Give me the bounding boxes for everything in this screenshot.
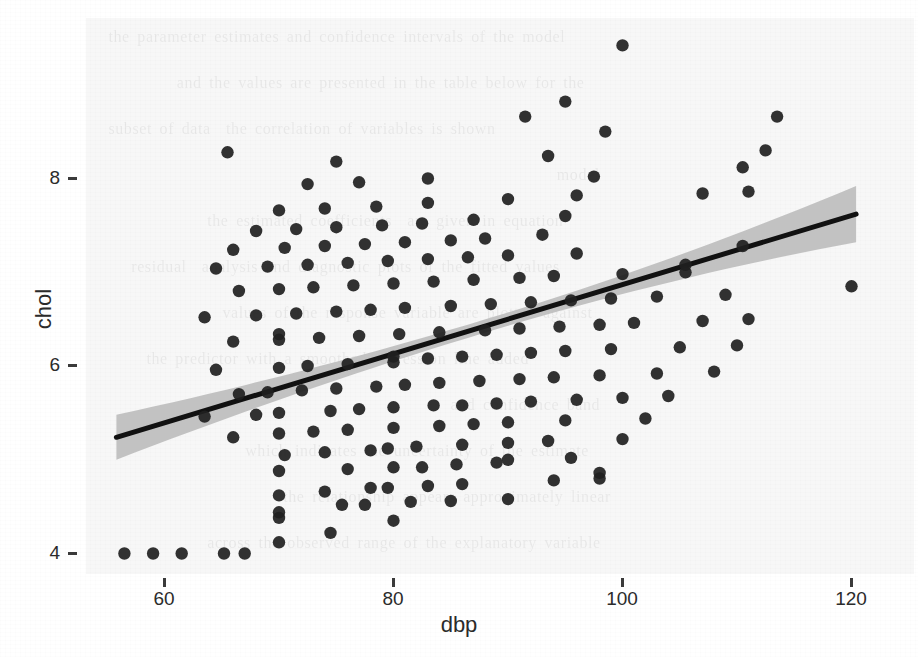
data-point: [616, 39, 628, 51]
data-point: [473, 375, 485, 387]
data-point: [845, 280, 857, 292]
data-point: [651, 290, 663, 302]
data-point: [605, 292, 617, 304]
data-point: [605, 343, 617, 355]
data-point: [353, 403, 365, 415]
data-point: [387, 401, 399, 413]
data-point: [422, 253, 434, 265]
data-point: [502, 437, 514, 449]
data-point: [301, 178, 313, 190]
data-point: [221, 146, 233, 158]
data-point: [118, 547, 130, 559]
data-point: [422, 172, 434, 184]
data-point: [467, 274, 479, 286]
data-point: [273, 465, 285, 477]
data-point: [364, 482, 376, 494]
data-point: [502, 416, 514, 428]
data-point: [433, 326, 445, 338]
data-point: [759, 144, 771, 156]
data-point: [502, 454, 514, 466]
data-point: [427, 399, 439, 411]
data-point: [330, 221, 342, 233]
data-point: [324, 405, 336, 417]
data-point: [571, 247, 583, 259]
data-point: [399, 379, 411, 391]
data-point: [347, 279, 359, 291]
data-point: [696, 187, 708, 199]
data-point: [387, 515, 399, 527]
data-point: [525, 347, 537, 359]
data-point: [490, 397, 502, 409]
data-point: [273, 328, 285, 340]
data-point: [261, 386, 273, 398]
data-point: [696, 315, 708, 327]
data-point: [324, 527, 336, 539]
data-point: [273, 536, 285, 548]
data-point: [382, 482, 394, 494]
data-point: [342, 358, 354, 370]
data-point: [319, 202, 331, 214]
data-point: [210, 262, 222, 274]
data-point: [336, 499, 348, 511]
data-point: [737, 161, 749, 173]
data-point: [342, 424, 354, 436]
data-point: [571, 394, 583, 406]
data-point: [422, 480, 434, 492]
data-point: [771, 110, 783, 122]
x-tick-mark-100: [621, 578, 624, 587]
data-point: [239, 547, 251, 559]
data-point: [565, 452, 577, 464]
data-point: [273, 362, 285, 374]
data-point: [593, 467, 605, 479]
data-point: [456, 439, 468, 451]
data-point: [382, 255, 394, 267]
data-point: [445, 234, 457, 246]
data-point: [593, 369, 605, 381]
figure-root: the parameter estimates and confidence i…: [0, 0, 918, 657]
data-point: [330, 382, 342, 394]
data-point: [445, 495, 457, 507]
data-point: [708, 365, 720, 377]
x-tick-mark-80: [392, 578, 395, 587]
data-point: [467, 418, 479, 430]
data-point: [462, 251, 474, 263]
data-point: [674, 341, 686, 353]
data-point: [536, 229, 548, 241]
data-point: [485, 298, 497, 310]
data-point: [427, 275, 439, 287]
data-point: [467, 214, 479, 226]
data-point: [616, 433, 628, 445]
data-point: [353, 330, 365, 342]
data-point: [370, 380, 382, 392]
data-point: [387, 422, 399, 434]
data-point: [364, 444, 376, 456]
y-tick-mark-4: [68, 552, 77, 555]
y-tick-label-4: 4: [20, 542, 60, 564]
x-tick-label-100: 100: [592, 588, 652, 610]
data-point: [559, 95, 571, 107]
data-point: [273, 489, 285, 501]
data-point: [513, 322, 525, 334]
data-point: [399, 302, 411, 314]
x-tick-label-120: 120: [821, 588, 881, 610]
data-point: [456, 478, 468, 490]
data-point: [364, 304, 376, 316]
data-point: [525, 395, 537, 407]
data-point: [405, 496, 417, 508]
data-point: [445, 300, 457, 312]
data-point: [742, 313, 754, 325]
y-tick-mark-8: [68, 177, 77, 180]
data-point: [370, 200, 382, 212]
data-point: [313, 332, 325, 344]
data-point: [433, 377, 445, 389]
data-point: [233, 285, 245, 297]
data-point: [290, 307, 302, 319]
data-point: [273, 427, 285, 439]
data-point: [416, 461, 428, 473]
data-point: [479, 324, 491, 336]
data-point: [330, 305, 342, 317]
data-point: [502, 193, 514, 205]
data-point: [599, 125, 611, 137]
data-point: [227, 431, 239, 443]
y-tick-label-8: 8: [20, 167, 60, 189]
